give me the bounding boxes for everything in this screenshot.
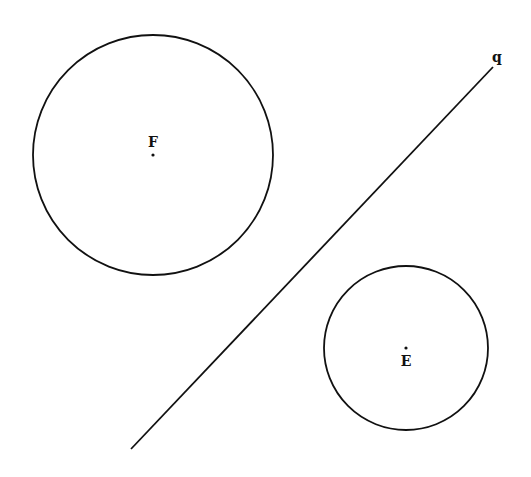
label-q: q <box>492 49 502 65</box>
center-point-f <box>151 153 154 156</box>
line-q-group: q <box>131 49 502 449</box>
geometry-diagram: F E q <box>0 0 531 477</box>
label-e: E <box>401 353 412 369</box>
circle-e-group: E <box>324 266 488 430</box>
line-q <box>131 67 493 449</box>
circle-f-group: F <box>33 35 273 275</box>
center-point-e <box>404 346 407 349</box>
label-f: F <box>148 134 158 150</box>
